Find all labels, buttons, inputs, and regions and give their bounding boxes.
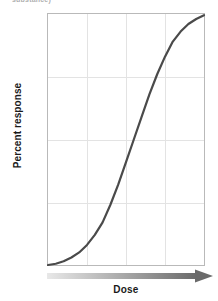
y-axis-title: Percent response: [12, 61, 23, 191]
dose-response-curve: [48, 14, 204, 265]
cutoff-caption-fragment: substance): [12, 0, 51, 3]
dose-axis-arrow-icon: [45, 269, 215, 283]
dose-response-figure: substance) Percent response 100 50 0 Dos…: [0, 0, 218, 301]
plot-area: 100 50 0: [47, 13, 205, 266]
x-axis-title: Dose: [47, 284, 205, 295]
